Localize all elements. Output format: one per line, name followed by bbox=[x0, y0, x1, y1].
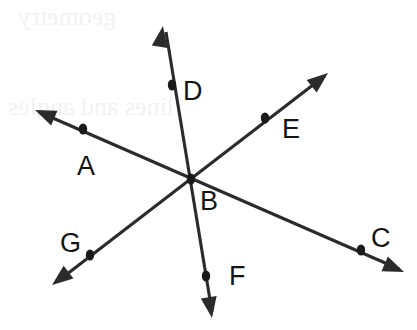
arrowhead-toward-f bbox=[201, 296, 217, 318]
arrowhead-toward-g bbox=[52, 266, 73, 285]
point-label-c: C bbox=[371, 223, 391, 253]
arrowhead-toward-c bbox=[382, 256, 404, 272]
point-dot-g bbox=[86, 249, 94, 260]
figure-canvas: A C D E F G B bbox=[0, 0, 417, 330]
point-label-d: D bbox=[183, 76, 203, 106]
point-dot-f bbox=[202, 270, 210, 281]
point-label-e: E bbox=[282, 114, 300, 144]
point-label-f: F bbox=[229, 261, 246, 291]
point-dot-b bbox=[187, 173, 195, 184]
point-label-b: B bbox=[200, 186, 218, 216]
arrowhead-toward-a bbox=[35, 110, 57, 126]
point-label-g: G bbox=[60, 228, 81, 258]
geometry-diagram: geometry lines and angles A C bbox=[0, 0, 417, 330]
point-label-a: A bbox=[77, 151, 95, 181]
point-labels-group: A C D E F G B bbox=[60, 76, 391, 291]
point-dot-d bbox=[168, 79, 176, 90]
line-a-c bbox=[39, 112, 399, 269]
point-dot-e bbox=[261, 112, 269, 123]
arrowhead-toward-e bbox=[307, 73, 328, 92]
point-dots-group bbox=[79, 79, 365, 281]
point-dot-c bbox=[357, 244, 365, 255]
arrowhead-toward-d bbox=[152, 26, 168, 48]
point-dot-a bbox=[79, 123, 87, 134]
